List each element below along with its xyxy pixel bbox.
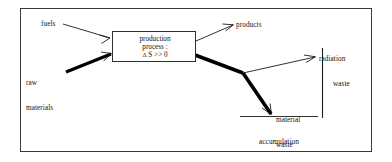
waste-trunk-line xyxy=(195,55,243,73)
figure-root: production process : Δ S >> 0 fuels raw … xyxy=(0,0,392,162)
process-box-text: production process : Δ S >> 0 xyxy=(113,35,197,60)
label-radiation: radiation xyxy=(319,55,345,63)
label-products: products xyxy=(236,21,262,29)
process-box-line-3: Δ S >> 0 xyxy=(113,51,197,59)
label-accumulation-in-sinks: accumulation in sinks xyxy=(240,121,318,162)
process-box: production process : Δ S >> 0 xyxy=(112,31,196,62)
process-box-line-2: process : xyxy=(113,43,197,51)
arrow-products xyxy=(196,24,234,41)
label-waste-bracket: waste xyxy=(333,80,350,88)
label-fuels: fuels xyxy=(41,20,55,28)
entropy-inequality: S >> 0 xyxy=(147,51,168,59)
arrow-material-waste xyxy=(243,73,272,115)
arrow-fuels xyxy=(63,24,110,44)
arrow-radiation xyxy=(243,55,316,73)
label-raw-materials-line-2: materials xyxy=(26,104,70,112)
arrow-raw-materials xyxy=(66,52,112,72)
label-raw-materials: raw materials xyxy=(26,62,70,129)
label-raw-materials-line-1: raw xyxy=(26,79,70,87)
label-accumulation-line-1: accumulation xyxy=(240,138,318,146)
process-box-line-1: production xyxy=(113,35,197,43)
